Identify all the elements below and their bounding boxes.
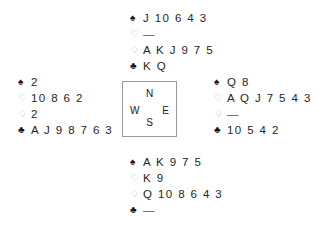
south-club-row: ♣ —: [130, 202, 223, 218]
spade-icon: ♠: [18, 74, 31, 90]
heart-icon: ♡: [214, 90, 227, 106]
hand-south: ♠ A K 9 7 5 ♡ K 9 ♢ Q 10 8 6 4 3 ♣ —: [130, 154, 223, 218]
diamond-icon: ♢: [130, 42, 143, 58]
west-heart-row: ♡ 10 8 6 2: [18, 90, 113, 106]
east-heart-cards: A Q J 7 5 4 3: [227, 90, 312, 106]
compass-north-label: N: [123, 89, 176, 99]
spade-icon: ♠: [214, 74, 227, 90]
west-diamond-row: ♢ 2: [18, 106, 113, 122]
hand-west: ♠ 2 ♡ 10 8 6 2 ♢ 2 ♣ A J 9 8 7 6 3: [18, 74, 113, 138]
east-spade-cards: Q 8: [227, 74, 250, 90]
south-heart-cards: K 9: [143, 170, 164, 186]
diamond-icon: ♢: [18, 106, 31, 122]
south-diamond-row: ♢ Q 10 8 6 4 3: [130, 186, 223, 202]
club-icon: ♣: [214, 122, 227, 138]
east-club-cards: 10 5 4 2: [227, 122, 280, 138]
west-club-cards: A J 9 8 7 6 3: [31, 122, 113, 138]
south-spade-row: ♠ A K 9 7 5: [130, 154, 223, 170]
compass-box: N W E S: [122, 81, 177, 137]
south-club-cards: —: [143, 202, 155, 218]
east-spade-row: ♠ Q 8: [214, 74, 312, 90]
south-heart-row: ♡ K 9: [130, 170, 223, 186]
compass-east-label: E: [162, 106, 169, 116]
north-club-cards: K Q: [143, 58, 167, 74]
north-spade-cards: J 10 6 4 3: [143, 10, 208, 26]
west-spade-row: ♠ 2: [18, 74, 113, 90]
club-icon: ♣: [18, 122, 31, 138]
compass-west-label: W: [130, 106, 139, 116]
north-diamond-row: ♢ A K J 9 7 5: [130, 42, 214, 58]
south-diamond-cards: Q 10 8 6 4 3: [143, 186, 223, 202]
north-heart-cards: —: [143, 26, 155, 42]
diamond-icon: ♢: [130, 186, 143, 202]
north-club-row: ♣ K Q: [130, 58, 214, 74]
north-heart-row: ♡ —: [130, 26, 214, 42]
west-club-row: ♣ A J 9 8 7 6 3: [18, 122, 113, 138]
diamond-icon: ♢: [214, 106, 227, 122]
north-diamond-cards: A K J 9 7 5: [143, 42, 214, 58]
heart-icon: ♡: [130, 170, 143, 186]
hand-north: ♠ J 10 6 4 3 ♡ — ♢ A K J 9 7 5 ♣ K Q: [130, 10, 214, 74]
club-icon: ♣: [130, 202, 143, 218]
club-icon: ♣: [130, 58, 143, 74]
bridge-deal-diagram: ♠ J 10 6 4 3 ♡ — ♢ A K J 9 7 5 ♣ K Q ♠ 2…: [0, 0, 330, 228]
east-diamond-cards: —: [227, 106, 239, 122]
hand-east: ♠ Q 8 ♡ A Q J 7 5 4 3 ♢ — ♣ 10 5 4 2: [214, 74, 312, 138]
east-club-row: ♣ 10 5 4 2: [214, 122, 312, 138]
spade-icon: ♠: [130, 154, 143, 170]
west-diamond-cards: 2: [31, 106, 39, 122]
heart-icon: ♡: [18, 90, 31, 106]
west-spade-cards: 2: [31, 74, 39, 90]
west-heart-cards: 10 8 6 2: [31, 90, 84, 106]
east-diamond-row: ♢ —: [214, 106, 312, 122]
south-spade-cards: A K 9 7 5: [143, 154, 202, 170]
heart-icon: ♡: [130, 26, 143, 42]
compass-south-label: S: [123, 118, 176, 128]
spade-icon: ♠: [130, 10, 143, 26]
east-heart-row: ♡ A Q J 7 5 4 3: [214, 90, 312, 106]
north-spade-row: ♠ J 10 6 4 3: [130, 10, 214, 26]
